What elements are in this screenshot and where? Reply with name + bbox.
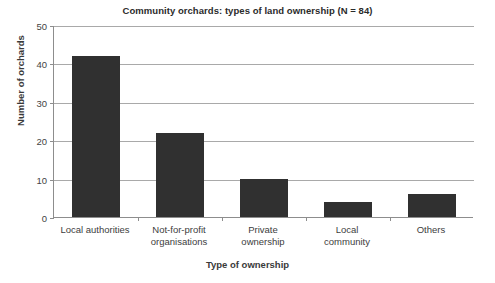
chart-figure: Community orchards: types of land owners… xyxy=(0,0,495,283)
x-axis-category-label-line: Local authorities xyxy=(53,224,137,236)
x-axis-title: Type of ownership xyxy=(0,259,495,270)
chart-title: Community orchards: types of land owners… xyxy=(0,5,495,16)
y-axis-tick xyxy=(50,103,54,104)
bar xyxy=(408,194,456,217)
x-axis-category-label: Local authorities xyxy=(53,224,137,236)
y-axis-tick xyxy=(50,141,54,142)
y-axis-tick xyxy=(50,180,54,181)
x-axis-category-label-line: Local xyxy=(305,224,389,236)
x-axis-category-label-line: organisations xyxy=(137,236,221,248)
y-axis-tick-label: 50 xyxy=(36,21,47,32)
bar xyxy=(156,133,204,217)
x-axis-category-label-line: Others xyxy=(389,224,473,236)
x-axis-tick xyxy=(306,217,307,221)
x-axis-category-label-line: ownership xyxy=(221,236,305,248)
y-axis-tick-label: 20 xyxy=(36,136,47,147)
x-axis-category-label: Privateownership xyxy=(221,224,305,248)
x-axis-tick xyxy=(138,217,139,221)
bar xyxy=(240,179,288,217)
x-axis-tick xyxy=(222,217,223,221)
y-axis-tick xyxy=(50,64,54,65)
bar xyxy=(72,56,120,217)
bar xyxy=(324,202,372,217)
y-axis-tick-label: 0 xyxy=(42,213,47,224)
y-axis-tick xyxy=(50,218,54,219)
x-axis-category-label-line: Not-for-profit xyxy=(137,224,221,236)
x-axis-category-label-line: Private xyxy=(221,224,305,236)
y-axis-tick xyxy=(50,26,54,27)
x-axis-category-label: Others xyxy=(389,224,473,236)
x-axis-category-label: Localcommunity xyxy=(305,224,389,248)
x-axis-tick xyxy=(390,217,391,221)
y-axis-tick-label: 40 xyxy=(36,59,47,70)
gridline xyxy=(54,26,474,27)
x-axis-category-label: Not-for-profitorganisations xyxy=(137,224,221,248)
plot-area: 01020304050 xyxy=(53,26,473,218)
y-axis-tick-label: 30 xyxy=(36,97,47,108)
y-axis-tick-label: 10 xyxy=(36,174,47,185)
y-axis-title: Number of orchards xyxy=(15,11,26,151)
x-axis-category-label-line: community xyxy=(305,236,389,248)
